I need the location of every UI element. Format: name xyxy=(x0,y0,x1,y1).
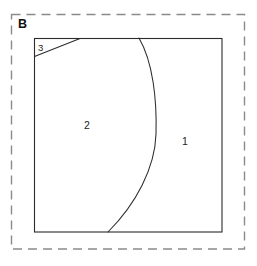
figure-panel-b: B 3 2 1 xyxy=(0,0,257,266)
region-label-3: 3 xyxy=(38,42,43,53)
plot-area-rectangle xyxy=(35,39,223,233)
region-diagram-svg: B 3 2 1 xyxy=(0,0,257,266)
region-label-2: 2 xyxy=(84,119,90,131)
region-label-1: 1 xyxy=(182,135,188,147)
panel-letter-label: B xyxy=(18,17,27,31)
